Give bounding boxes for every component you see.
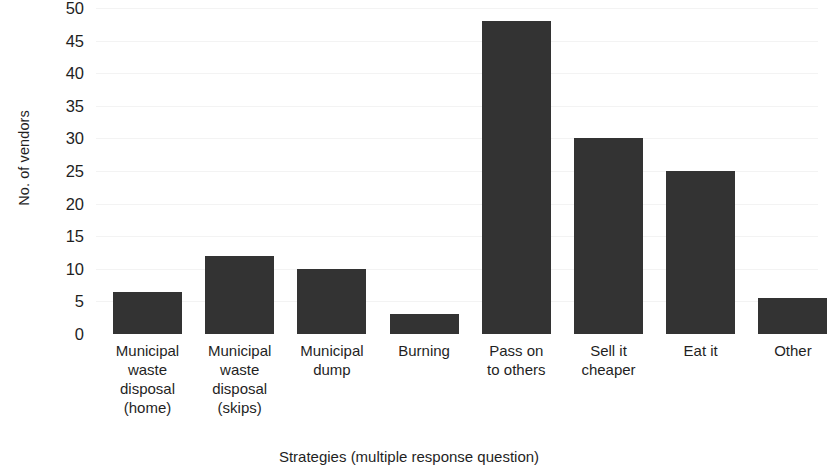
y-axis-tick-label: 40 [66,65,84,82]
y-axis-tick-label: 0 [75,326,84,343]
bar [113,292,182,334]
y-axis-tick-label: 10 [66,261,84,278]
x-axis-category-label: Municipal dump [284,341,380,379]
y-axis-tick-label: 5 [75,293,84,310]
gridline [96,8,818,9]
gridline [96,41,818,42]
x-axis-category-label: Pass on to others [468,341,564,379]
y-axis-tick-label: 35 [66,98,84,115]
y-axis-tick-label: 20 [66,195,84,212]
y-axis-tick-label: 15 [66,228,84,245]
x-axis-category-label: Municipal waste disposal (skips) [192,341,288,417]
y-axis-tick-label: 50 [66,0,84,16]
bar [666,171,735,334]
bar [758,298,827,334]
gridline [96,73,818,74]
x-axis-line [96,334,818,335]
bar [574,138,643,334]
gridline [96,106,818,107]
plot-area [96,8,818,334]
y-axis-tick-labels: 05101520253035404550 [0,0,96,475]
x-axis-category-label: Sell it cheaper [561,341,657,379]
bar [297,269,366,334]
y-axis-tick-label: 30 [66,130,84,147]
x-axis-category-label: Other [745,341,831,360]
y-axis-tick-label: 45 [66,32,84,49]
bar [390,314,459,334]
y-axis-tick-label: 25 [66,163,84,180]
x-axis-category-labels: Municipal waste disposal (home)Municipal… [96,341,818,437]
gridline [96,138,818,139]
x-axis-category-label: Eat it [653,341,749,360]
x-axis-title: Strategies (multiple response question) [0,448,818,465]
x-axis-category-label: Municipal waste disposal (home) [100,341,196,417]
bar [205,256,274,334]
x-axis-category-label: Burning [376,341,472,360]
bar [482,21,551,334]
